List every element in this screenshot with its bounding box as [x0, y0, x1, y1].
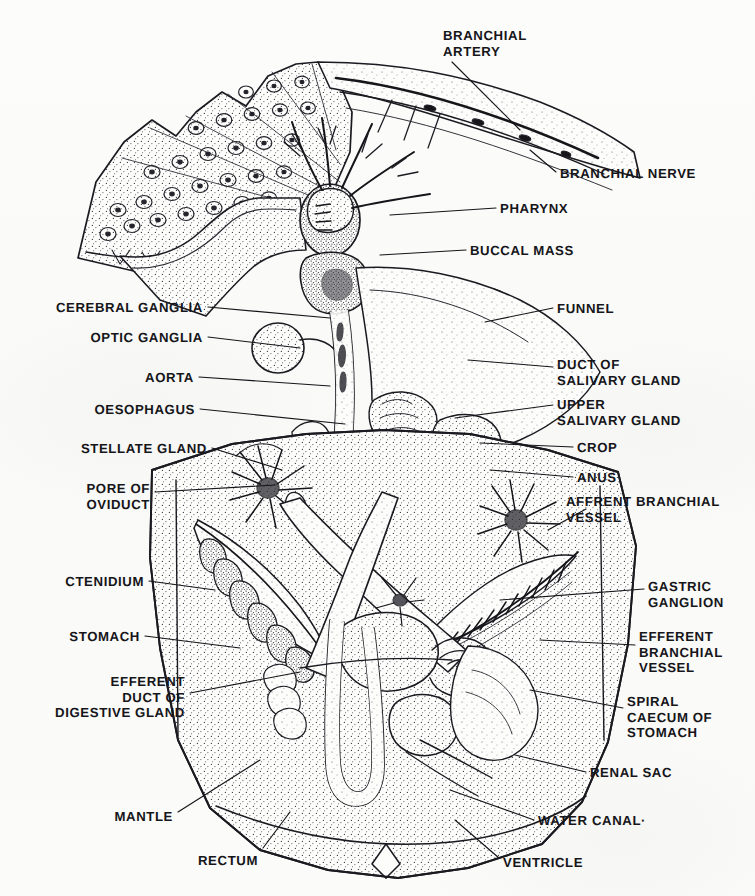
- label-oesophagus: OESOPHAGUS: [94, 402, 195, 418]
- leader-oesophagus: [200, 409, 345, 424]
- leader-pharynx: [390, 208, 496, 215]
- label-afferent-branchial: AFFRENT BRANCHIAL VESSEL: [566, 494, 720, 525]
- label-aorta: AORTA: [145, 370, 194, 386]
- leader-buccal-mass: [380, 250, 466, 255]
- label-stomach: STOMACH: [69, 629, 140, 645]
- label-pharynx: PHARYNX: [500, 201, 568, 217]
- label-stellate-gland: STELLATE GLAND: [81, 441, 207, 457]
- label-optic-ganglia: OPTIC GANGLIA: [90, 330, 203, 346]
- label-duct-salivary: DUCT OF SALIVARY GLAND: [557, 357, 681, 388]
- label-ventricle: VENTRICLE: [503, 855, 583, 871]
- figure-page: BRANCHIAL ARTERYBRANCHIAL NERVEPHARYNXBU…: [0, 0, 755, 896]
- label-rectum: RECTUM: [198, 853, 258, 869]
- label-water-canal: WATER CANAL·: [538, 813, 646, 829]
- label-cerebral-ganglia: CEREBRAL GANGLIA: [56, 300, 203, 316]
- label-efferent-duct: EFFERENT DUCT OF DIGESTIVE GLAND: [55, 674, 185, 721]
- label-mantle: MANTLE: [114, 809, 173, 825]
- leader-aorta: [199, 377, 330, 386]
- label-anus: ANUS: [577, 470, 617, 486]
- label-renal-sac: RENAL SAC: [590, 765, 672, 781]
- label-buccal-mass: BUCCAL MASS: [470, 243, 574, 259]
- label-gastric-ganglion: GASTRIC GANGLION: [648, 579, 724, 610]
- label-branchial-artery: BRANCHIAL ARTERY: [443, 28, 527, 59]
- leader-branchial-nerve: [530, 150, 556, 172]
- label-branchial-nerve: BRANCHIAL NERVE: [560, 166, 696, 182]
- label-spiral-caecum: SPIRAL CAECUM OF STOMACH: [627, 694, 712, 741]
- label-upper-salivary: UPPER SALIVARY GLAND: [557, 397, 681, 428]
- leader-cerebral-ganglia: [208, 307, 330, 318]
- label-efferent-branchial: EFFERENT BRANCHIAL VESSEL: [639, 629, 723, 676]
- label-ctenidium: CTENIDIUM: [65, 574, 144, 590]
- label-pore-of-oviduct: PORE OF OVIDUCT: [86, 481, 150, 512]
- label-funnel: FUNNEL: [557, 301, 614, 317]
- label-crop: CROP: [577, 440, 618, 456]
